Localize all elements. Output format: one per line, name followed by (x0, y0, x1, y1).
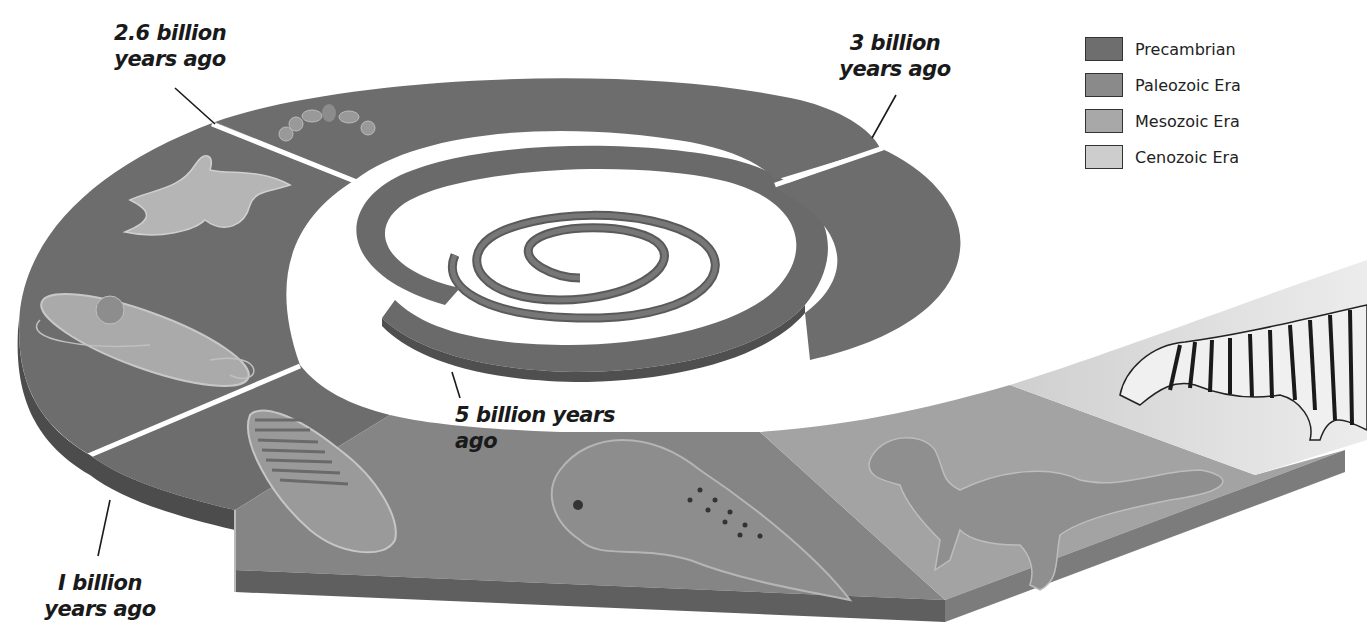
legend-label: Paleozoic Era (1135, 76, 1241, 95)
label-line: years ago (100, 46, 240, 72)
label-line: 2.6 billion (100, 20, 240, 46)
legend-label: Mesozoic Era (1135, 112, 1240, 131)
label-line: I billion (40, 570, 160, 596)
label-2-6-billion-years-ago: 2.6 billion years ago (100, 20, 240, 72)
label-line: 5 billion years ago (455, 403, 615, 453)
label-1-billion-years-ago: I billion years ago (40, 570, 160, 622)
middle-spiral-band (356, 146, 828, 382)
legend-label: Cenozoic Era (1135, 148, 1239, 167)
label-line: 3 billion (830, 30, 960, 56)
geologic-time-spiral-diagram: 2.6 billion years ago 3 billion years ag… (0, 0, 1367, 638)
legend: Precambrian Paleozoic Era Mesozoic Era C… (1085, 34, 1241, 178)
swatch-mesozoic (1085, 109, 1123, 133)
inner-spiral (452, 215, 715, 318)
legend-item-paleozoic: Paleozoic Era (1085, 70, 1241, 100)
label-5-billion-years-ago: 5 billion years ago (455, 402, 645, 454)
legend-item-precambrian: Precambrian (1085, 34, 1241, 64)
legend-label: Precambrian (1135, 40, 1236, 59)
label-3-billion-years-ago: 3 billion years ago (830, 30, 960, 82)
swatch-precambrian (1085, 37, 1123, 61)
label-line: years ago (40, 596, 160, 622)
swatch-paleozoic (1085, 73, 1123, 97)
legend-item-mesozoic: Mesozoic Era (1085, 106, 1241, 136)
swatch-cenozoic (1085, 145, 1123, 169)
legend-item-cenozoic: Cenozoic Era (1085, 142, 1241, 172)
label-line: years ago (830, 56, 960, 82)
